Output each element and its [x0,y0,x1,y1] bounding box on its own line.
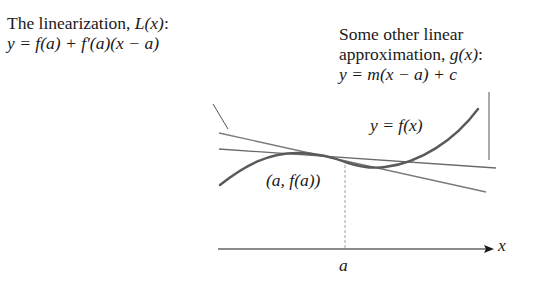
function-curve [220,109,478,185]
approximation-line2-text: approximation, [339,44,450,64]
approximation-line2: approximation, g(x): [339,44,483,64]
point-of-tangency-label: (a, f(a)) [266,170,320,190]
approximation-line2-colon: : [478,44,483,64]
linearization-title-text: The linearization, [7,13,135,33]
approximation-line1: Some other linear [339,24,483,44]
linearization-leader-line [213,104,228,129]
linearization-func-name: L(x) [135,13,164,33]
linearization-equation: y = f(a) + f′(a)(x − a) [7,33,169,53]
linearization-caption: The linearization, L(x): y = f(a) + f′(a… [7,13,169,53]
x-axis-label: x [498,235,506,255]
approximation-caption: Some other linear approximation, g(x): y… [339,24,483,84]
approximation-equation: y = m(x − a) + c [339,64,483,84]
linearization-title: The linearization, L(x): [7,13,169,33]
approximation-func-name: g(x) [450,44,478,64]
linearization-title-colon: : [164,13,169,33]
a-tick-label: a [339,255,348,275]
curve-label: y = f(x) [370,115,423,135]
